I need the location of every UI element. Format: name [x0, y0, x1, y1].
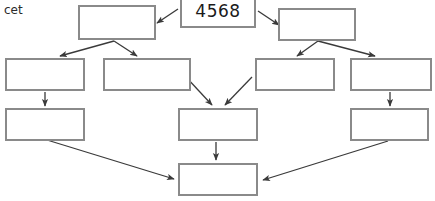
edge-l2c-to-l3b — [225, 77, 252, 105]
node-box-root[interactable]: 4568 — [180, 0, 256, 28]
stray-text-cet: cet — [4, 4, 23, 16]
edge-l3c-to-leaf — [263, 141, 388, 180]
edge-l3a-to-leaf — [47, 140, 174, 179]
node-box-leaf[interactable] — [178, 163, 258, 196]
edge-l1a-to-l2b — [114, 41, 137, 56]
edge-root-to-l1a — [157, 9, 178, 23]
edge-l1b-to-l2d — [318, 41, 375, 56]
node-box-l3c[interactable] — [350, 108, 429, 141]
edge-root-to-l1b — [258, 11, 279, 25]
node-box-l3a[interactable] — [5, 108, 85, 141]
node-box-l1b[interactable] — [278, 8, 356, 41]
node-label-root: 4568 — [195, 3, 240, 20]
diagram-canvas: cet 4568 — [0, 0, 435, 201]
node-box-l2a[interactable] — [5, 58, 85, 91]
node-box-l1a[interactable] — [78, 5, 156, 40]
node-box-l2c[interactable] — [255, 58, 335, 91]
edge-l1b-to-l2c — [297, 41, 318, 56]
edge-l1a-to-l2a — [60, 41, 114, 56]
node-box-l2d[interactable] — [350, 58, 432, 91]
node-box-l3b[interactable] — [178, 108, 258, 141]
node-box-l2b[interactable] — [103, 58, 191, 91]
